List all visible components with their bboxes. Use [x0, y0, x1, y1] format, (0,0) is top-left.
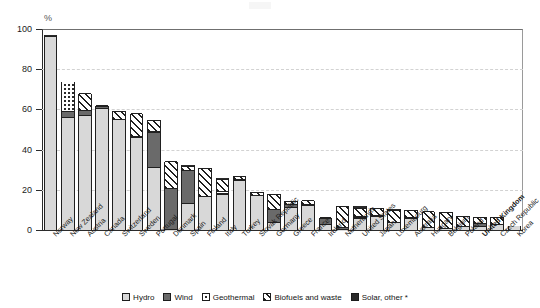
bar-segment-solar-other- [217, 178, 229, 180]
y-axis-tick-label: 20 [6, 185, 32, 195]
y-axis-tick-label: 80 [6, 64, 32, 74]
bar-segment-geothermal [62, 82, 74, 112]
legend-swatch-icon [351, 293, 359, 301]
bar-segment-solar-other- [131, 113, 143, 114]
bar-segment-biofuels-and-waste [268, 195, 280, 210]
bar-segment-wind [79, 111, 91, 116]
bar-segment-solar-other- [45, 35, 57, 37]
bar-segment-solar-other- [165, 161, 177, 162]
y-axis-unit-label: % [44, 13, 52, 23]
bar-turkey [233, 176, 247, 230]
bar-series-layer [42, 29, 523, 230]
bar-segment-biofuels-and-waste [234, 177, 246, 181]
legend-item-hydro: Hydro [122, 293, 154, 302]
bar-segment-biofuels-and-waste [165, 162, 177, 188]
bar-segment-biofuels-and-waste [217, 180, 229, 192]
legend-swatch-icon [202, 293, 210, 301]
bar-segment-solar-other- [251, 192, 263, 193]
bar-segment-biofuels-and-waste [182, 167, 194, 171]
legend-swatch-icon [163, 293, 171, 301]
legend-label: Geothermal [213, 293, 255, 302]
bar-norway [44, 35, 58, 230]
bar-segment-wind [148, 133, 160, 168]
legend-label: Hydro [133, 293, 154, 302]
legend-swatch-icon [263, 293, 271, 301]
y-axis-tick-label: 60 [6, 104, 32, 114]
y-axis-tick [36, 230, 42, 231]
legend-item-biofuels-and-waste: Biofuels and waste [263, 293, 341, 302]
bar-segment-solar-other- [148, 120, 160, 121]
bar-segment-biofuels-and-waste [96, 106, 108, 107]
bar-segment-biofuels-and-waste [113, 112, 125, 120]
bar-segment-hydro [234, 181, 246, 230]
bar-segment-biofuels-and-waste [302, 201, 314, 205]
y-axis-tick-label: 100 [6, 24, 32, 34]
bar-segment-solar-other- [302, 200, 314, 201]
bar-segment-biofuels-and-waste [148, 121, 160, 132]
legend-item-wind: Wind [163, 293, 192, 302]
bar-segment-wind [62, 112, 74, 118]
bar-segment-biofuels-and-waste [79, 94, 91, 111]
chart-legend: HydroWindGeothermalBiofuels and wasteSol… [0, 288, 530, 306]
bar-segment-solar-other- [96, 105, 108, 106]
bar-segment-wind [182, 171, 194, 204]
bar-segment-solar-other- [337, 206, 349, 207]
bar-segment-solar-other- [199, 168, 211, 169]
bar-segment-solar-other- [79, 93, 91, 94]
bar-new-zealand [61, 82, 75, 230]
legend-item-geothermal: Geothermal [202, 293, 255, 302]
bar-segment-solar-other- [234, 176, 246, 177]
bar-segment-biofuels-and-waste [131, 114, 143, 136]
legend-label: Wind [174, 293, 192, 302]
bar-segment-solar-other- [182, 165, 194, 166]
bar-segment-geothermal [217, 192, 229, 194]
legend-label: Solar, other * [362, 293, 408, 302]
bar-segment-solar-other- [113, 111, 125, 112]
legend-swatch-icon [122, 293, 130, 301]
y-axis-tick-label: 40 [6, 145, 32, 155]
bar-segment-wind [131, 137, 143, 138]
x-axis-labels: NorwayNew ZealandAustriaCanadaSwitzerlan… [42, 232, 523, 288]
bar-segment-biofuels-and-waste [199, 169, 211, 197]
bar-segment-solar-other- [354, 206, 366, 209]
bar-segment-wind [96, 107, 108, 109]
y-axis-tick-label: 0 [6, 225, 32, 235]
bar-segment-solar-other- [268, 194, 280, 195]
bar-segment-hydro [45, 37, 57, 230]
legend-label: Biofuels and waste [274, 293, 341, 302]
bar-segment-biofuels-and-waste [251, 193, 263, 196]
legend-item-solar-other-: Solar, other * [351, 293, 408, 302]
bar-switzerland [112, 111, 126, 230]
top-artifact-mark [249, 2, 271, 9]
